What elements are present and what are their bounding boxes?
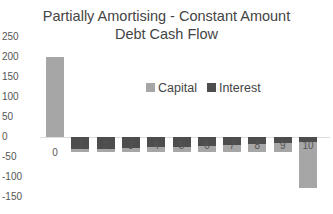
y-tick-label: 200 [2, 51, 32, 62]
y-tick-label: 0 [2, 131, 32, 142]
x-tick-label: 1 [70, 140, 90, 151]
legend-item-interest: Interest [207, 81, 261, 95]
interest-swatch-icon [207, 83, 216, 92]
x-tick-label: 2 [96, 140, 116, 151]
y-tick-label: 150 [2, 71, 32, 82]
capital-bar [46, 57, 64, 137]
x-tick-label: 5 [172, 140, 192, 151]
chart: Partially Amortising - Constant Amount D… [0, 0, 333, 214]
y-tick-label: -50 [2, 151, 32, 162]
capital-swatch-icon [146, 83, 155, 92]
x-tick-label: 7 [222, 140, 242, 151]
y-tick-label: -100 [2, 171, 32, 182]
y-tick-label: 250 [2, 31, 32, 42]
y-tick-label: -150 [2, 191, 32, 202]
x-tick-label: 10 [298, 140, 318, 151]
legend-item-capital: Capital [146, 81, 197, 95]
chart-title-line2: Debt Cash Flow [0, 26, 333, 42]
x-tick-label: 8 [247, 140, 267, 151]
chart-title-line1: Partially Amortising - Constant Amount [0, 8, 333, 24]
x-tick-label: 3 [121, 140, 141, 151]
x-tick-label: 0 [45, 147, 65, 158]
y-tick-label: 100 [2, 91, 32, 102]
x-tick-label: 4 [146, 140, 166, 151]
x-tick-label: 6 [197, 140, 217, 151]
x-tick-label: 9 [273, 140, 293, 151]
legend: Capital Interest [146, 81, 261, 95]
y-tick-label: 50 [2, 111, 32, 122]
